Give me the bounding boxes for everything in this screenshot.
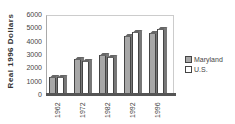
x-tick-label: 1972: [79, 102, 86, 118]
bar-maryland-1996: [149, 33, 156, 96]
y-tick-label: 5000: [18, 24, 42, 31]
chart-floor: [46, 93, 176, 96]
y-tick-label: 6000: [18, 11, 42, 18]
legend-item-us: U.S.: [185, 66, 223, 73]
y-tick-label: 3000: [18, 51, 42, 58]
y-axis-label: Real 1996 Dollars: [6, 11, 18, 91]
legend-label: U.S.: [194, 66, 208, 73]
bar-maryland-1972: [74, 59, 81, 96]
bar-us-1992: [132, 32, 139, 96]
plot-area: [46, 15, 174, 96]
bar-us-1982: [107, 57, 114, 96]
y-tick-label: 2000: [18, 64, 42, 71]
legend-swatch-maryland: [185, 56, 192, 63]
bar-us-1972: [82, 61, 89, 96]
y-tick-label: 4000: [18, 38, 42, 45]
legend-swatch-us: [185, 66, 192, 73]
x-tick-label: 1992: [129, 102, 136, 118]
y-tick-label: 1000: [18, 78, 42, 85]
bar-maryland-1982: [99, 55, 106, 96]
legend: Maryland U.S.: [185, 56, 223, 76]
legend-label: Maryland: [194, 56, 223, 63]
x-tick-label: 1996: [154, 102, 161, 118]
bar-maryland-1992: [124, 36, 131, 96]
x-tick-label: 1982: [104, 102, 111, 118]
y-tick-label: 0: [18, 91, 42, 98]
legend-item-maryland: Maryland: [185, 56, 223, 63]
x-tick-label: 1962: [54, 102, 61, 118]
bar-us-1996: [157, 29, 164, 96]
